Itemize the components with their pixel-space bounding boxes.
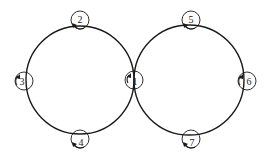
node-label: 5 bbox=[189, 14, 194, 25]
node-7: 7 bbox=[182, 130, 200, 148]
right-ring bbox=[134, 25, 244, 135]
node-label: 6 bbox=[247, 76, 252, 87]
node-label: 4 bbox=[79, 137, 84, 148]
node-4: 4 bbox=[71, 130, 89, 148]
node-label: 2 bbox=[78, 14, 83, 25]
node-label: 3 bbox=[20, 76, 25, 87]
ring-diagram: 1 2 3 4 5 6 7 bbox=[0, 0, 267, 160]
node-label: 1 bbox=[133, 76, 138, 87]
node-3: 3 bbox=[15, 72, 33, 90]
left-ring bbox=[26, 26, 134, 134]
node-label: 7 bbox=[190, 137, 195, 148]
node-5: 5 bbox=[182, 11, 200, 29]
node-6: 6 bbox=[238, 72, 256, 90]
